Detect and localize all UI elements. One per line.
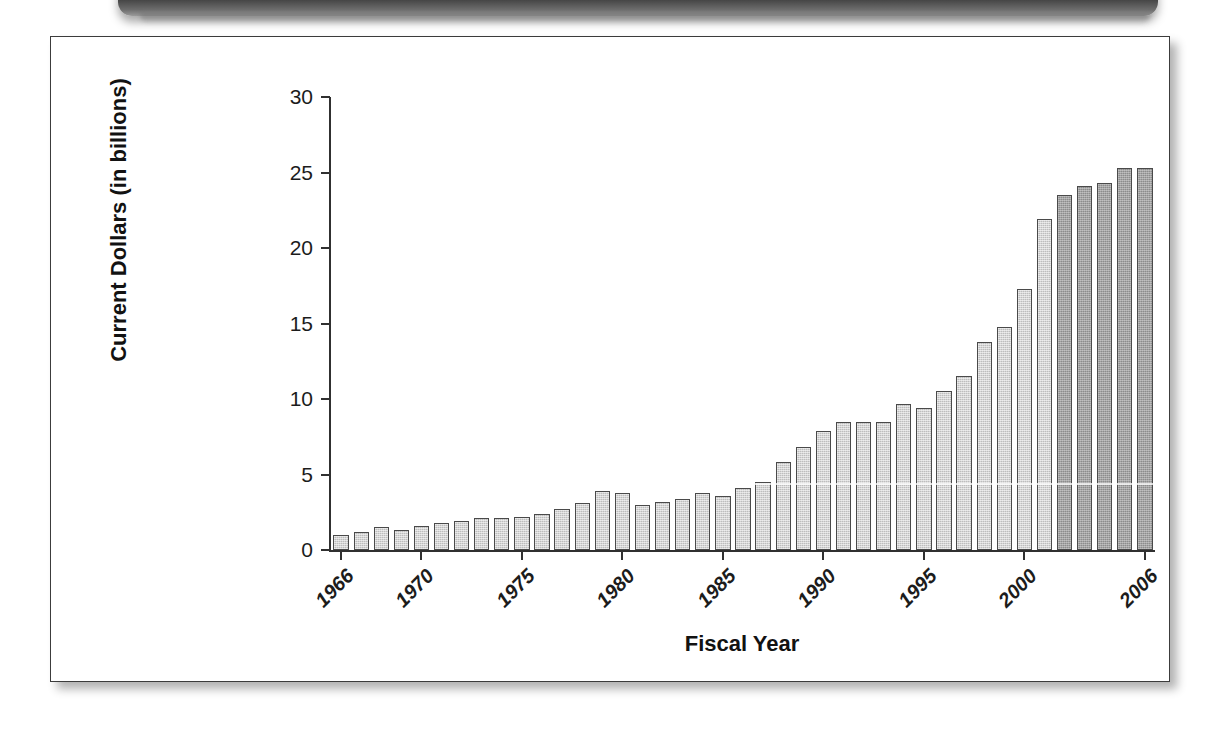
bar-1988	[776, 462, 791, 550]
x-tick-mark	[722, 552, 724, 560]
x-tick-mark	[923, 552, 925, 560]
y-tick-mark	[321, 323, 330, 325]
y-tick-label-wrap: 30	[261, 86, 313, 108]
y-tick-mark	[321, 247, 330, 249]
bar-1981	[635, 505, 650, 550]
y-tick-mark	[321, 398, 330, 400]
bar-1980	[615, 493, 630, 550]
bar-1998	[977, 342, 992, 550]
x-tick-label: 1985	[684, 565, 739, 620]
bar-2005	[1117, 168, 1132, 550]
y-tick-label-wrap: 20	[261, 237, 313, 259]
x-axis-title: Fiscal Year	[329, 631, 1155, 657]
x-tick-label: 1995	[885, 565, 940, 620]
x-tick-label: 1966	[302, 565, 357, 620]
bar-1968	[374, 527, 389, 550]
x-tick-mark	[1144, 552, 1146, 560]
bar-1974	[494, 518, 509, 550]
bar-1977	[554, 509, 569, 550]
bar-1967	[354, 532, 369, 550]
x-tick-mark	[1023, 552, 1025, 560]
x-tick-mark	[822, 552, 824, 560]
y-tick-label-wrap: 25	[261, 162, 313, 184]
figure-frame: 051015202530 196619701975198019851990199…	[50, 36, 1170, 682]
y-tick-label: 30	[271, 86, 313, 107]
bar-chart: 051015202530 196619701975198019851990199…	[51, 37, 1171, 683]
x-tick-label: 1980	[583, 565, 638, 620]
y-tick-mark	[321, 96, 330, 98]
bar-1979	[595, 491, 610, 550]
bar-1966	[333, 535, 348, 550]
bar-1989	[796, 447, 811, 550]
x-tick-mark	[420, 552, 422, 560]
bar-1969	[394, 530, 409, 550]
bar-1978	[575, 503, 590, 550]
bar-2004	[1097, 183, 1112, 550]
y-tick-mark	[321, 474, 330, 476]
bar-2001	[1037, 219, 1052, 550]
bar-2003	[1077, 186, 1092, 550]
y-tick-label-wrap: 5	[261, 464, 313, 486]
bar-1992	[856, 422, 871, 550]
bar-1982	[655, 502, 670, 550]
bar-2002	[1057, 195, 1072, 550]
bar-series	[331, 97, 1155, 550]
y-axis-title: Current Dollars (in billions)	[106, 20, 132, 420]
bar-2006	[1137, 168, 1152, 550]
y-tick-mark	[321, 549, 330, 551]
x-tick-mark	[340, 552, 342, 560]
bar-1996	[936, 391, 951, 550]
bar-1983	[675, 499, 690, 550]
y-tick-mark	[321, 172, 330, 174]
y-tick-label-wrap: 0	[261, 539, 313, 561]
bar-1997	[956, 376, 971, 550]
y-tick-label: 15	[271, 313, 313, 334]
bar-2000	[1017, 289, 1032, 550]
bar-1970	[414, 526, 429, 550]
x-axis-line	[329, 550, 1155, 552]
x-tick-mark	[521, 552, 523, 560]
bar-1993	[876, 422, 891, 550]
bar-1986	[735, 488, 750, 550]
x-tick-label: 1975	[483, 565, 538, 620]
y-tick-label: 5	[271, 464, 313, 485]
bar-1987	[755, 482, 770, 550]
bar-1975	[514, 517, 529, 550]
x-tick-label: 2006	[1106, 565, 1161, 620]
bar-1999	[997, 327, 1012, 550]
y-tick-label: 25	[271, 162, 313, 183]
bar-1972	[454, 521, 469, 550]
y-tick-label-wrap: 10	[261, 388, 313, 410]
x-tick-mark	[621, 552, 623, 560]
bar-1973	[474, 518, 489, 550]
top-banner-shadow	[140, 14, 1150, 24]
bar-1976	[534, 514, 549, 550]
y-tick-label: 20	[271, 237, 313, 258]
x-tick-label: 1970	[382, 565, 437, 620]
bar-1985	[715, 496, 730, 550]
x-tick-label: 2000	[985, 565, 1040, 620]
bar-1994	[896, 404, 911, 550]
y-tick-label: 10	[271, 388, 313, 409]
bar-1991	[836, 422, 851, 550]
x-tick-label: 1990	[784, 565, 839, 620]
y-tick-label: 0	[271, 539, 313, 560]
y-tick-label-wrap: 15	[261, 313, 313, 335]
bar-1984	[695, 493, 710, 550]
bar-1995	[916, 408, 931, 550]
bar-1971	[434, 523, 449, 550]
bar-1990	[816, 431, 831, 550]
